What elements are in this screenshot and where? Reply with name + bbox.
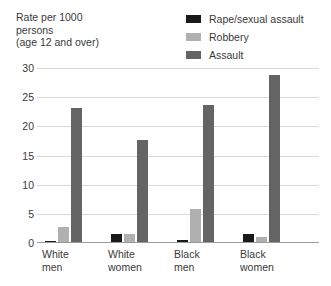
y-axis-tick-label: 10	[12, 179, 34, 191]
bar-chart: Rate per 1000 persons (age 12 and over) …	[0, 0, 331, 286]
bar-groups	[37, 68, 319, 243]
y-axis-tick-label: 30	[12, 62, 34, 74]
x-axis-category-label: White men	[42, 248, 69, 273]
y-axis-tick-label: 15	[12, 150, 34, 162]
y-axis-tick-label: 5	[12, 208, 34, 220]
x-axis-category-label: Black women	[240, 248, 274, 273]
x-axis-category-label: Black men	[174, 248, 200, 273]
x-axis-category-labels: White menWhite womenBlack menBlack women	[37, 248, 319, 282]
y-axis-tick-label: 20	[12, 120, 34, 132]
plot-area	[37, 68, 319, 243]
bar	[269, 75, 280, 243]
y-axis-tick-label: 0	[12, 237, 34, 249]
y-axis-tick-label: 25	[12, 91, 34, 103]
x-axis-baseline	[37, 242, 319, 243]
bar-group	[37, 68, 319, 243]
x-axis-category-label: White women	[108, 248, 142, 273]
